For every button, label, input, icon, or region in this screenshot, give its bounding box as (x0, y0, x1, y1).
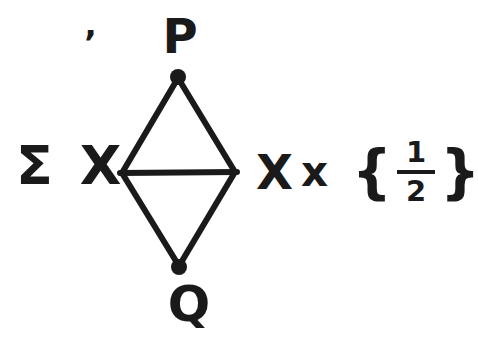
vertex-dot-q (171, 259, 187, 275)
open-brace: { (352, 143, 392, 202)
label-sigma-x: Σ X (16, 139, 121, 193)
edge-p-right (178, 78, 235, 172)
label-vertex-p: P (156, 12, 204, 60)
label-x-times-half: X x { 1 2 } (256, 126, 478, 218)
edge-left-q (122, 173, 179, 266)
edge-p-left (122, 78, 178, 173)
multiply-x: x (301, 151, 328, 193)
fraction-one-half: 1 2 (397, 138, 435, 206)
vertex-dot-p (170, 69, 186, 85)
fraction-numerator: 1 (397, 138, 435, 174)
horizontal-diagonal (120, 172, 237, 173)
edge-right-q (179, 172, 235, 266)
stray-mark: ’ (84, 26, 97, 60)
capital-x: X (256, 148, 293, 196)
close-brace: } (440, 143, 478, 202)
label-vertex-q: Q (164, 279, 214, 329)
fraction-denominator: 2 (406, 174, 426, 206)
